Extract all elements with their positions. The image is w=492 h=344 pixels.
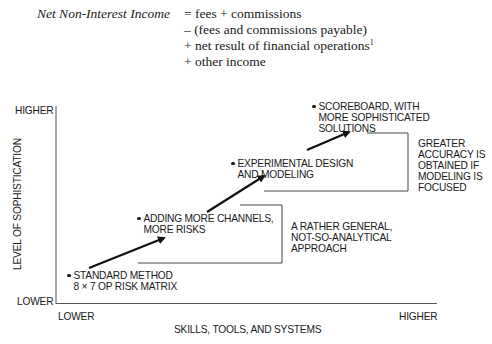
node-scoreboard: SCOREBOARD, WITH MORE SOPHISTICATED SOLU… xyxy=(312,101,430,134)
x-axis-low-label: LOWER xyxy=(58,311,94,322)
x-axis-high-label: HIGHER xyxy=(399,311,437,322)
arrow-3 xyxy=(307,132,349,150)
node-standard-method: STANDARD METHOD 8 × 7 OP RISK MATRIX xyxy=(67,270,177,292)
bullet-icon xyxy=(312,105,316,109)
node-adding-channels: ADDING MORE CHANNELS, MORE RISKS xyxy=(137,213,273,235)
annotation-greater-accuracy: GREATER ACCURACY IS OBTAINED IF MODELING… xyxy=(418,138,485,193)
arrow-2 xyxy=(207,176,264,212)
bullet-icon xyxy=(137,217,141,221)
annotation-general-approach: A RATHER GENERAL, NOT-SO-ANALYTICAL APPR… xyxy=(291,221,392,254)
node-experimental-design: EXPERIMENTAL DESIGN AND MODELING xyxy=(231,158,353,180)
x-axis-title: SKILLS, TOOLS, AND SYSTEMS xyxy=(174,324,321,335)
y-axis-title: LEVEL OF SOPHISTICATION xyxy=(12,138,23,270)
bullet-icon xyxy=(67,274,71,278)
bullet-icon xyxy=(231,162,235,166)
y-axis-high-label: HIGHER xyxy=(15,105,53,116)
y-axis-low-label: LOWER xyxy=(17,296,53,307)
